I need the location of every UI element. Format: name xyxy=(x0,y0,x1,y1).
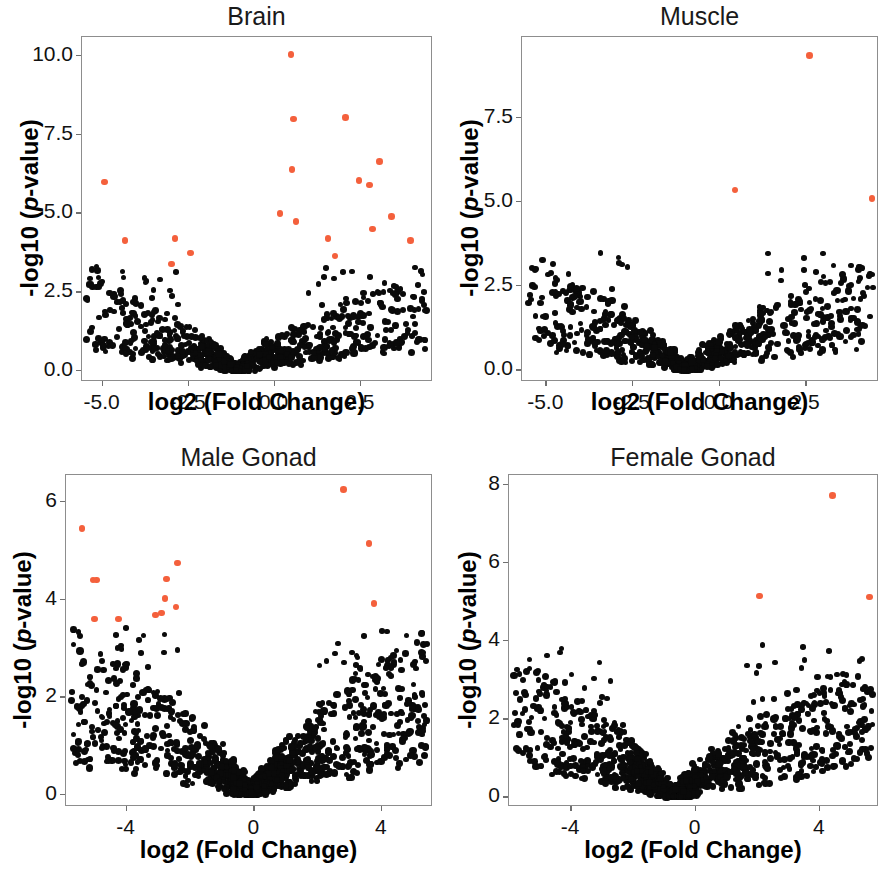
data-point-nonsignificant xyxy=(684,777,690,783)
data-point-nonsignificant xyxy=(236,363,242,369)
data-point-nonsignificant xyxy=(794,747,799,752)
data-point-nonsignificant xyxy=(412,321,418,327)
data-point-nonsignificant xyxy=(277,356,283,362)
data-point-nonsignificant xyxy=(862,684,868,690)
data-point-significant xyxy=(277,210,284,217)
data-point-nonsignificant xyxy=(237,366,243,372)
data-point-nonsignificant xyxy=(177,323,184,330)
data-point-nonsignificant xyxy=(236,363,243,370)
data-point-nonsignificant xyxy=(227,366,232,371)
data-point-nonsignificant xyxy=(399,339,405,345)
data-point-nonsignificant xyxy=(223,769,229,775)
data-point-nonsignificant xyxy=(835,691,840,696)
data-point-nonsignificant xyxy=(242,359,248,365)
data-point-nonsignificant xyxy=(680,781,686,787)
data-point-nonsignificant xyxy=(533,695,540,702)
data-point-nonsignificant xyxy=(243,791,250,798)
data-point-nonsignificant xyxy=(779,730,786,737)
data-point-nonsignificant xyxy=(110,745,116,751)
data-point-significant xyxy=(756,593,763,600)
data-point-nonsignificant xyxy=(550,679,557,686)
data-point-nonsignificant xyxy=(207,781,213,787)
data-point-nonsignificant xyxy=(684,361,691,368)
data-point-nonsignificant xyxy=(671,793,677,799)
data-point-nonsignificant xyxy=(215,761,221,767)
data-point-nonsignificant xyxy=(105,677,112,684)
data-point-nonsignificant xyxy=(113,666,119,672)
data-point-nonsignificant xyxy=(207,348,214,355)
data-point-nonsignificant xyxy=(136,706,143,713)
data-point-nonsignificant xyxy=(597,700,603,706)
data-point-nonsignificant xyxy=(746,715,752,721)
data-point-nonsignificant xyxy=(411,682,416,687)
data-point-nonsignificant xyxy=(244,791,251,798)
data-point-nonsignificant xyxy=(668,793,675,800)
data-point-nonsignificant xyxy=(710,351,717,358)
data-point-nonsignificant xyxy=(206,347,213,354)
data-point-nonsignificant xyxy=(744,758,750,764)
data-point-nonsignificant xyxy=(330,702,336,708)
data-point-nonsignificant xyxy=(197,352,203,358)
data-point-nonsignificant xyxy=(196,774,201,779)
data-point-nonsignificant xyxy=(138,302,145,309)
data-point-nonsignificant xyxy=(321,771,326,776)
data-point-nonsignificant xyxy=(689,781,695,787)
data-point-nonsignificant xyxy=(669,349,676,356)
data-point-nonsignificant xyxy=(220,763,227,770)
data-point-nonsignificant xyxy=(633,782,640,789)
data-point-nonsignificant xyxy=(416,759,423,766)
data-point-nonsignificant xyxy=(168,354,175,361)
data-point-nonsignificant xyxy=(255,777,261,783)
data-point-nonsignificant xyxy=(274,359,281,366)
data-point-nonsignificant xyxy=(544,653,550,659)
data-point-nonsignificant xyxy=(565,737,570,742)
data-point-nonsignificant xyxy=(190,351,196,357)
data-point-nonsignificant xyxy=(250,786,257,793)
data-point-nonsignificant xyxy=(839,271,846,278)
data-point-nonsignificant xyxy=(668,790,674,796)
data-point-nonsignificant xyxy=(148,319,154,325)
data-point-nonsignificant xyxy=(229,787,236,794)
data-point-nonsignificant xyxy=(684,356,691,363)
data-point-nonsignificant xyxy=(673,792,679,798)
data-point-nonsignificant xyxy=(652,767,659,774)
data-point-nonsignificant xyxy=(699,358,704,363)
data-point-nonsignificant xyxy=(682,362,688,368)
data-point-nonsignificant xyxy=(612,750,618,756)
data-point-nonsignificant xyxy=(621,776,626,781)
data-point-nonsignificant xyxy=(237,360,244,367)
data-point-nonsignificant xyxy=(253,791,260,798)
data-point-nonsignificant xyxy=(576,292,582,298)
data-point-nonsignificant xyxy=(646,771,652,777)
data-point-nonsignificant xyxy=(670,789,676,795)
data-point-nonsignificant xyxy=(277,767,284,774)
data-point-nonsignificant xyxy=(581,767,587,773)
data-point-nonsignificant xyxy=(246,368,252,374)
data-point-nonsignificant xyxy=(221,365,227,371)
data-point-nonsignificant xyxy=(544,684,550,690)
data-point-nonsignificant xyxy=(773,750,779,756)
data-point-nonsignificant xyxy=(762,751,767,756)
data-point-nonsignificant xyxy=(247,791,253,797)
data-point-nonsignificant xyxy=(223,758,229,764)
data-point-nonsignificant xyxy=(857,264,863,270)
y-tick-mark-brain-2 xyxy=(76,212,81,213)
data-point-nonsignificant xyxy=(670,788,677,795)
data-point-nonsignificant xyxy=(259,791,265,797)
data-point-nonsignificant xyxy=(183,342,188,347)
data-point-nonsignificant xyxy=(669,356,675,362)
data-point-nonsignificant xyxy=(591,339,598,346)
data-point-nonsignificant xyxy=(681,362,688,369)
data-point-nonsignificant xyxy=(601,737,607,743)
data-point-nonsignificant xyxy=(726,331,733,338)
data-point-nonsignificant xyxy=(365,672,371,678)
data-point-nonsignificant xyxy=(597,756,604,763)
data-point-nonsignificant xyxy=(694,358,701,365)
data-point-nonsignificant xyxy=(564,724,570,730)
data-point-nonsignificant xyxy=(194,354,200,360)
data-point-nonsignificant xyxy=(663,353,669,359)
data-point-nonsignificant xyxy=(220,354,226,360)
data-point-nonsignificant xyxy=(300,733,307,740)
data-point-nonsignificant xyxy=(234,366,240,372)
data-point-nonsignificant xyxy=(553,289,559,295)
